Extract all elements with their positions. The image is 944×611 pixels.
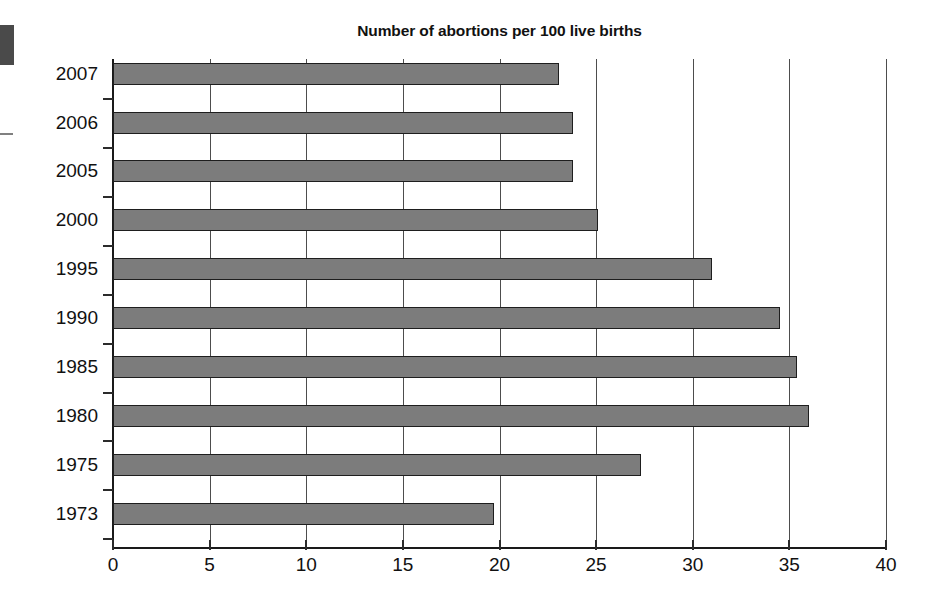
x-tick-0 [112,540,114,550]
chart-title: Number of abortions per 100 live births [113,22,886,40]
y-tick-2006 [103,147,113,149]
x-tick-30 [692,540,694,550]
gridline-30 [693,59,694,548]
bar-2006 [113,112,573,134]
x-tick-15 [402,540,404,550]
y-axis-label-1973: 1973 [12,504,98,523]
bar-1990 [113,307,780,329]
x-tick-35 [788,540,790,550]
bar-1980 [113,405,809,427]
x-axis-label-15: 15 [373,555,433,575]
x-axis-label-40: 40 [856,555,916,575]
x-axis-label-30: 30 [663,555,723,575]
y-tick-1985 [103,392,113,394]
y-axis-label-2005: 2005 [12,161,98,180]
y-axis-label-1975: 1975 [12,455,98,474]
bar-2005 [113,160,573,182]
x-axis-label-35: 35 [759,555,819,575]
x-tick-40 [885,540,887,550]
y-tick-2007 [103,98,113,100]
gridline-40 [886,59,887,548]
y-tick-1990 [103,343,113,345]
y-axis-label-2000: 2000 [12,210,98,229]
y-axis-label-2007: 2007 [12,64,98,83]
y-tick-1975 [103,489,113,491]
y-axis-label-1990: 1990 [12,308,98,327]
bar-1985 [113,356,797,378]
x-tick-25 [595,540,597,550]
bar-2000 [113,209,598,231]
y-axis-label-1995: 1995 [12,259,98,278]
y-tick-2005 [103,196,113,198]
x-tick-10 [305,540,307,550]
bar-1975 [113,454,641,476]
bar-1973 [113,503,494,525]
gridline-35 [789,59,790,548]
x-axis-label-5: 5 [180,555,240,575]
bar-2007 [113,63,559,85]
y-axis-label-2006: 2006 [12,113,98,132]
y-axis-labels: 2007200620052000199519901985198019751973 [0,0,98,611]
y-axis-label-1980: 1980 [12,406,98,425]
x-axis-label-25: 25 [566,555,626,575]
x-axis-label-10: 10 [276,555,336,575]
y-axis-label-1985: 1985 [12,357,98,376]
x-axis-label-0: 0 [83,555,143,575]
y-tick-1995 [103,294,113,296]
x-tick-20 [499,540,501,550]
bar-chart: Number of abortions per 100 live births … [0,0,944,611]
y-tick-2000 [103,245,113,247]
x-axis-label-20: 20 [470,555,530,575]
y-tick-1980 [103,440,113,442]
bar-1995 [113,258,712,280]
x-tick-5 [209,540,211,550]
